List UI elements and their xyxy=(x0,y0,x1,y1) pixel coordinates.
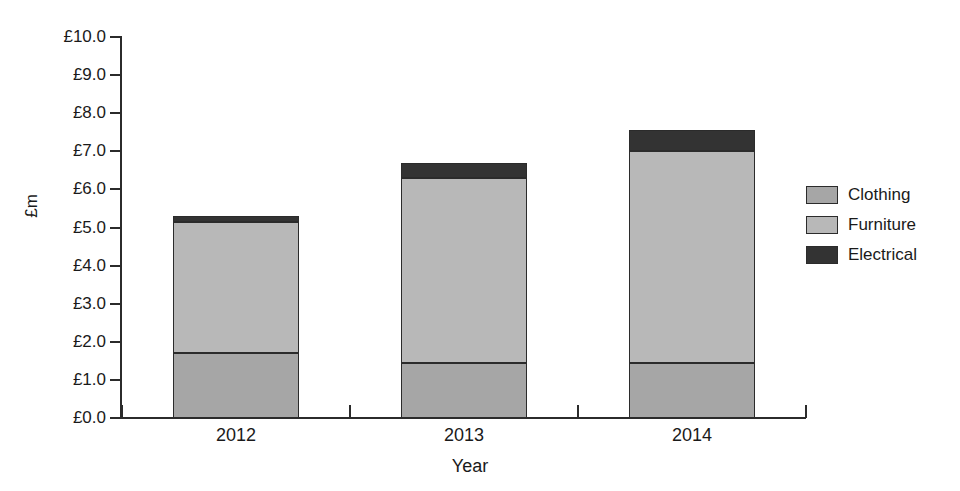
y-axis-tick-label: £1.0 xyxy=(28,371,106,388)
bar-segment-clothing-2012[interactable] xyxy=(173,353,299,418)
y-axis-tick-label: £4.0 xyxy=(28,257,106,274)
x-axis-category-label: 2013 xyxy=(424,425,504,446)
chart-legend: ClothingFurnitureElectrical xyxy=(806,180,956,270)
y-axis-tick xyxy=(110,265,121,267)
bar-segment-electrical-2014[interactable] xyxy=(629,130,755,151)
y-axis-tick-label: £3.0 xyxy=(28,295,106,312)
y-axis-tick-label: £9.0 xyxy=(28,66,106,83)
bar-2012[interactable] xyxy=(173,37,299,418)
legend-item-clothing[interactable]: Clothing xyxy=(806,180,956,210)
x-axis-tick xyxy=(121,405,123,418)
x-axis-category-label: 2012 xyxy=(196,425,276,446)
y-axis-tick-label: £0.0 xyxy=(28,409,106,426)
y-axis-tick-label: £2.0 xyxy=(28,333,106,350)
y-axis-tick xyxy=(110,227,121,229)
legend-label: Electrical xyxy=(848,245,917,265)
bar-segment-electrical-2012[interactable] xyxy=(173,216,299,222)
y-axis-tick-label: £6.0 xyxy=(28,180,106,197)
y-axis-tick xyxy=(110,379,121,381)
y-axis-tick xyxy=(110,36,121,38)
bar-segment-furniture-2014[interactable] xyxy=(629,151,755,362)
x-axis-tick xyxy=(805,405,807,418)
x-axis-category-label: 2014 xyxy=(652,425,732,446)
legend-swatch-clothing xyxy=(806,186,838,204)
y-axis-tick xyxy=(110,74,121,76)
x-axis-tick xyxy=(349,405,351,418)
stacked-bar-chart: £m £10.0£9.0£8.0£7.0£6.0£5.0£4.0£3.0£2.0… xyxy=(0,0,960,491)
y-axis-tick xyxy=(110,188,121,190)
legend-swatch-furniture xyxy=(806,216,838,234)
bar-segment-clothing-2013[interactable] xyxy=(401,363,527,418)
bar-2014[interactable] xyxy=(629,37,755,418)
x-axis-tick xyxy=(577,405,579,418)
y-axis-tick-label: £10.0 xyxy=(28,28,106,45)
bar-segment-electrical-2013[interactable] xyxy=(401,163,527,178)
y-axis-tick xyxy=(110,303,121,305)
y-axis-tick-label: £5.0 xyxy=(28,219,106,236)
bar-segment-clothing-2014[interactable] xyxy=(629,363,755,418)
y-axis-tick-labels: £10.0£9.0£8.0£7.0£6.0£5.0£4.0£3.0£2.0£1.… xyxy=(28,0,106,491)
y-axis-tick xyxy=(110,417,121,419)
bar-2013[interactable] xyxy=(401,37,527,418)
y-axis-tick xyxy=(110,112,121,114)
legend-swatch-electrical xyxy=(806,246,838,264)
y-axis-tick-label: £7.0 xyxy=(28,142,106,159)
y-axis-tick-label: £8.0 xyxy=(28,104,106,121)
legend-label: Clothing xyxy=(848,185,910,205)
y-axis-tick xyxy=(110,341,121,343)
x-axis-title: Year xyxy=(380,456,560,477)
bar-segment-furniture-2013[interactable] xyxy=(401,178,527,363)
legend-item-furniture[interactable]: Furniture xyxy=(806,210,956,240)
bar-segment-furniture-2012[interactable] xyxy=(173,222,299,353)
legend-item-electrical[interactable]: Electrical xyxy=(806,240,956,270)
y-axis-tick xyxy=(110,150,121,152)
legend-label: Furniture xyxy=(848,215,916,235)
